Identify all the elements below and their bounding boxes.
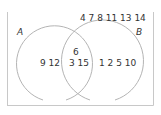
only-b-elements: 1 2 5 10 <box>99 58 136 68</box>
only-a-elements: 9 12 <box>40 58 60 68</box>
set-a-label: A <box>17 27 23 37</box>
outside-elements: 4 7 8 11 13 14 <box>80 13 146 23</box>
intersection-top: 6 <box>73 47 79 57</box>
intersection-bottom: 3 15 <box>69 58 89 68</box>
set-b-label: B <box>136 27 142 37</box>
